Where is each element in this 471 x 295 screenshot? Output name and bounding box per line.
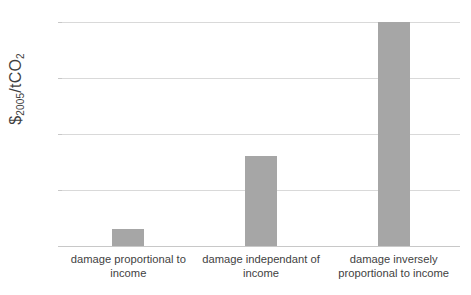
bar-0 [112, 229, 144, 246]
x-axis-labels: damage proportional to income damage ind… [62, 252, 460, 292]
y-axis-title-unit-subscript: 2 [15, 53, 26, 59]
bar-2 [378, 22, 410, 246]
y-axis-title-year: 2005 [15, 93, 26, 116]
y-tick-mark-40 [58, 134, 62, 135]
bar-chart: $2005/tCO2 020406080 damage proportional… [0, 0, 471, 295]
y-tick-mark-80 [58, 22, 62, 23]
gridline-0 [62, 246, 460, 247]
y-tick-mark-60 [58, 78, 62, 79]
bar-1 [245, 156, 277, 246]
y-tick-mark-0 [58, 246, 62, 247]
x-axis-label-2: damage inversely proportional to income [327, 252, 460, 292]
y-tick-mark-20 [58, 190, 62, 191]
y-axis-title-currency: $ [7, 116, 24, 125]
x-axis-label-1: damage independant of income [195, 252, 328, 292]
y-axis-title-unit: /tCO [7, 59, 24, 93]
plot-area: 020406080 [62, 22, 460, 246]
y-axis-title: $2005/tCO2 [7, 29, 25, 149]
x-axis-label-0: damage proportional to income [62, 252, 195, 292]
